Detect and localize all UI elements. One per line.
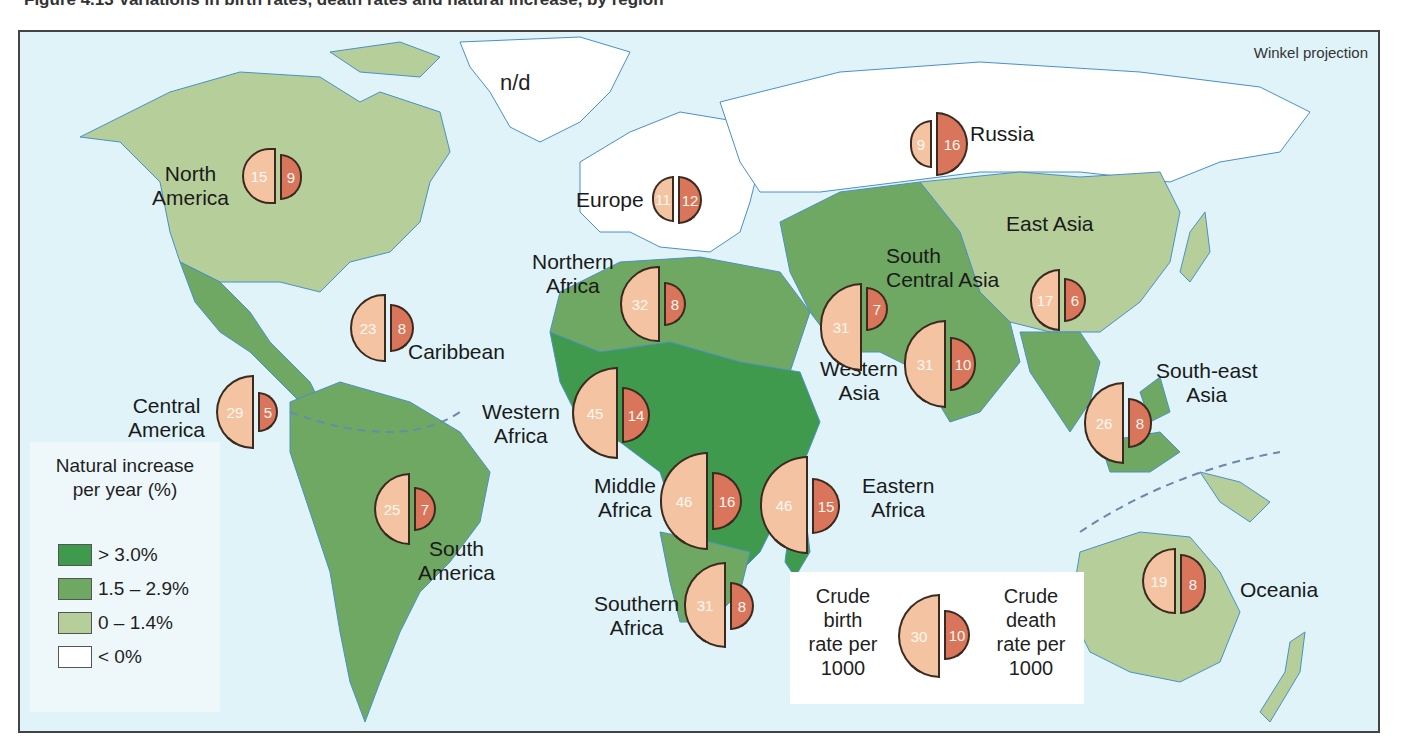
land-greenland [460, 37, 630, 142]
region-label-central-america: CentralAmerica [128, 394, 205, 442]
region-label-middle-africa: MiddleAfrica [594, 474, 656, 522]
rate-key-box: Crudebirthrate per1000 30 10 Crudedeathr… [790, 572, 1084, 704]
greenland-no-data-label: n/d [500, 70, 531, 96]
region-label-western-africa: WesternAfrica [482, 400, 560, 448]
key-birth-label: Crudebirthrate per1000 [798, 584, 888, 680]
region-label-east-asia: East Asia [1006, 212, 1094, 236]
legend-item-0-1-4: 0 – 1.4% [58, 612, 173, 634]
legend-item-lt0: < 0% [58, 646, 142, 668]
birth-rate-half: 30 [898, 594, 940, 678]
figure-caption: Figure 4.13 Variations in birth rates, d… [24, 0, 664, 10]
death-rate-half: 10 [944, 610, 970, 660]
key-death-label: Crudedeathrate per1000 [986, 584, 1076, 680]
map-frame: Winkel projection n/d NorthAmerica 15 9 … [18, 30, 1380, 733]
legend-item-1-5-2-9: 1.5 – 2.9% [58, 578, 189, 600]
region-label-northern-africa: NorthernAfrica [532, 250, 614, 298]
legend-swatch [58, 612, 92, 634]
region-label-europe: Europe [576, 188, 644, 212]
region-label-south-central-asia: SouthCentral Asia [886, 244, 999, 292]
legend-title: Natural increaseper year (%) [30, 454, 220, 502]
region-label-southern-africa: SouthernAfrica [594, 592, 679, 640]
projection-label: Winkel projection [1254, 44, 1368, 61]
region-label-north-america: NorthAmerica [152, 162, 229, 210]
region-label-eastern-africa: EasternAfrica [862, 474, 934, 522]
region-label-south-america: SouthAmerica [418, 537, 495, 585]
legend-swatch [58, 544, 92, 566]
legend-swatch [58, 646, 92, 668]
region-label-oceania: Oceania [1240, 578, 1318, 602]
region-label-caribbean: Caribbean [408, 340, 505, 364]
region-label-russia: Russia [970, 122, 1034, 146]
legend-swatch [58, 578, 92, 600]
natural-increase-legend: Natural increaseper year (%) > 3.0% 1.5 … [30, 442, 220, 712]
legend-item-gt3: > 3.0% [58, 544, 158, 566]
region-label-southeast-asia: South-eastAsia [1156, 359, 1258, 407]
